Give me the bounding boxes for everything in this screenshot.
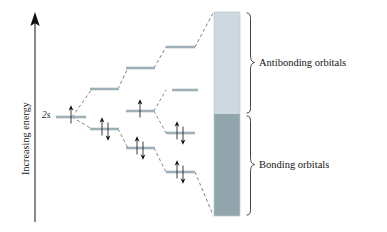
electron-up-arrow xyxy=(135,136,140,154)
envelope-upper-dashed xyxy=(72,13,213,117)
electron-down-arrow xyxy=(181,166,186,184)
electron-down-arrow xyxy=(141,142,146,160)
axis-label-increasing-energy: Increasing energy xyxy=(20,102,31,175)
energy-axis xyxy=(30,12,39,222)
energy-band xyxy=(214,12,240,216)
antibonding-band xyxy=(214,12,240,114)
electron-up-arrow xyxy=(175,121,180,139)
level-column-3 xyxy=(126,68,155,160)
level-column-1 xyxy=(56,105,86,123)
electron-up-arrow xyxy=(100,117,105,135)
bonding-orbitals-label: Bonding orbitals xyxy=(259,159,329,170)
figure-canvas: Increasing energy 2s Antibonding orbital… xyxy=(0,0,387,232)
bonding-band xyxy=(214,114,240,216)
antibonding-orbitals-label: Antibonding orbitals xyxy=(259,57,346,68)
electron-down-arrow xyxy=(181,127,186,145)
level-column-2 xyxy=(90,89,119,141)
electron-up-arrow xyxy=(69,105,74,123)
mo-band-diagram-svg xyxy=(0,0,387,232)
level-column-4 xyxy=(166,47,198,184)
electron-up-arrow xyxy=(138,99,143,117)
electron-up-arrow xyxy=(175,160,180,178)
envelope-connectors xyxy=(154,90,166,133)
electron-down-arrow xyxy=(106,123,111,141)
bonding-brace xyxy=(247,116,255,215)
atomic-level-label-2s: 2s xyxy=(42,110,50,120)
antibonding-brace xyxy=(247,13,255,113)
